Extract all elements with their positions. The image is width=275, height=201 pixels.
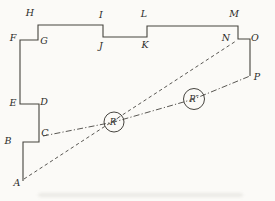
marker-label-1: R′: [109, 117, 118, 127]
boundary-outline: [20, 25, 250, 181]
vertex-label-L: L: [140, 8, 147, 19]
vertex-label-P: P: [253, 71, 261, 82]
vertex-label-D: D: [39, 96, 48, 107]
vertex-label-E: E: [9, 97, 17, 108]
diagram-canvas: R′R″ABCDEFGHIJKLMNOP: [0, 0, 275, 201]
vertex-label-C: C: [41, 127, 49, 138]
vertex-label-K: K: [140, 39, 149, 50]
vertex-label-I: I: [98, 9, 103, 20]
vertex-label-J: J: [97, 40, 104, 51]
vertex-label-N: N: [221, 32, 231, 43]
sight-line-C-P: [43, 76, 250, 136]
geometric-diagram: R′R″ABCDEFGHIJKLMNOP: [0, 0, 275, 201]
vertex-label-B: B: [4, 135, 12, 146]
vertex-label-O: O: [251, 32, 259, 43]
scan-bleed-artifact: [38, 193, 243, 197]
marker-label-2: R″: [188, 94, 199, 104]
vertex-label-M: M: [228, 8, 239, 19]
sight-line-A-N: [24, 41, 236, 179]
vertex-label-A: A: [13, 177, 21, 188]
vertex-label-H: H: [25, 7, 35, 18]
vertex-label-G: G: [40, 35, 48, 46]
vertex-label-F: F: [9, 32, 17, 43]
